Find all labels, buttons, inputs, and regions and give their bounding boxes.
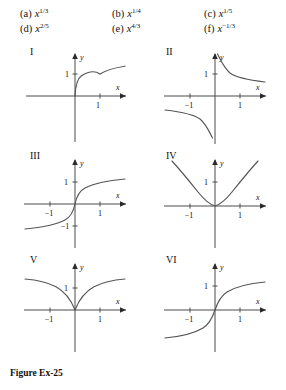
graph-panel-4: IV 1 −1 1 x y [146,148,286,252]
option-d-key: (d) [20,23,32,34]
y-tick-label-1: 1 [204,70,208,79]
y-tick-label-1: 1 [204,282,208,291]
x-axis-arrow [260,203,266,209]
graph-numeral-2: II [166,46,173,57]
x-axis-label: x [115,297,120,306]
curve-x-pow-neg-1-3-branch-positive [218,54,266,82]
y-axis-label: y [79,263,84,272]
x-tick-label-neg-1: −1 [45,315,54,324]
x-axis-label: x [255,83,260,92]
option-c: (c)x1/5 [204,4,232,20]
y-tick-label-neg-1: −1 [61,222,70,231]
option-f-key: (f) [204,23,215,34]
graph-numeral-4: IV [166,150,177,161]
option-a-key: (a) [20,8,32,19]
x-tick-label-neg-1: −1 [185,315,194,324]
option-b-key: (b) [112,8,124,19]
graph-numeral-1: I [30,46,33,57]
option-e: (e)x4/3 [112,19,140,35]
x-tick-label-neg-1: −1 [45,209,54,218]
graph-numeral-3: III [30,150,40,161]
x-axis-arrow [120,201,126,207]
graph-panel-1: I 1 1 x y [6,44,146,148]
option-f: (f)x−1/3 [204,19,235,35]
option-e-key: (e) [112,23,124,34]
y-tick-label-1: 1 [204,178,208,187]
y-axis-arrow [72,263,78,269]
y-axis-label: y [219,159,224,168]
y-axis-arrow [212,263,218,269]
graph-svg-3: 1 −1 1 −1 x y [6,148,146,252]
figure-caption: Figure Ex-25 [10,368,63,378]
x-axis-label: x [115,191,120,200]
option-f-expression: x−1/3 [215,23,236,34]
graph-panel-2: II 1 −1 1 x y [146,44,286,148]
x-axis-label: x [255,297,260,306]
option-a: (a)x1/3 [20,4,48,20]
x-axis-arrow [260,307,266,313]
x-axis-label: x [255,193,260,202]
x-tick-label-1: 1 [98,209,102,218]
x-tick-label-1: 1 [98,315,102,324]
graph-svg-4: 1 −1 1 x y [146,148,286,252]
x-tick-label-neg-1: −1 [185,211,194,220]
graph-svg-5: 1 −1 1 x y [6,252,146,356]
option-a-expression: x1/3 [32,8,49,19]
graph-numeral-6: VI [166,254,177,265]
option-c-key: (c) [204,8,216,19]
x-tick-label-1: 1 [238,211,242,220]
x-tick-label-1: 1 [238,315,242,324]
option-d-expression: x2/5 [32,23,49,34]
graph-svg-2: 1 −1 1 x y [146,44,286,148]
option-e-expression: x4/3 [124,23,141,34]
y-axis-label: y [219,263,224,272]
y-tick-label-1: 1 [64,178,68,187]
curve-x-pow-neg-1-3-branch-negative [165,110,213,138]
graph-svg-6: 1 −1 1 x y [146,252,286,356]
graph-panel-3: III 1 −1 1 −1 x y [6,148,146,252]
graph-svg-1: 1 1 x y [6,44,146,148]
y-axis-arrow [212,159,218,165]
graph-numeral-5: V [30,254,37,265]
option-b-expression: x1/4 [124,8,141,19]
graph-panel-6: VI 1 −1 1 x y [146,252,286,356]
y-tick-label-1: 1 [64,284,68,293]
x-axis-label: x [115,83,120,92]
x-axis-arrow [260,93,266,99]
x-axis-arrow [120,307,126,313]
y-axis-label: y [79,159,84,168]
graph-panel-5: V 1 −1 1 x y [6,252,146,356]
answer-options-list: (a)x1/3 (b)x1/4 (c)x1/5 (d)x2/5 (e)x4/3 … [0,0,286,36]
x-tick-label-1: 1 [238,101,242,110]
x-tick-label-neg-1: −1 [185,101,194,110]
option-b: (b)x1/4 [112,4,141,20]
x-axis-arrow [120,93,126,99]
y-axis-arrow [72,53,78,59]
option-c-expression: x1/5 [216,8,233,19]
y-tick-label-1: 1 [65,70,69,79]
y-axis-label: y [79,53,84,62]
y-axis-arrow [72,159,78,165]
x-tick-label-1: 1 [96,101,100,110]
option-d: (d)x2/5 [20,19,49,35]
